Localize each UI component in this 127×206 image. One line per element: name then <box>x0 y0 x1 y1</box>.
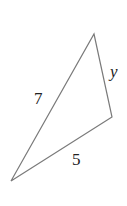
side-label-left: 7 <box>34 89 43 108</box>
side-label-right: y <box>108 62 118 81</box>
side-label-bottom: 5 <box>72 150 81 169</box>
triangle-shape <box>11 34 112 181</box>
triangle-diagram: 7 5 y <box>0 0 127 206</box>
